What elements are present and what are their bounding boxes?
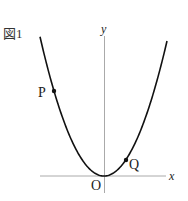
parabola-diagram: P Q O x y	[0, 0, 188, 201]
point-p	[52, 89, 56, 93]
point-q-label: Q	[129, 157, 139, 172]
point-p-label: P	[38, 85, 46, 100]
origin-label: O	[91, 178, 101, 193]
y-axis-label: y	[100, 22, 107, 36]
parabola-curve	[40, 37, 167, 176]
point-q	[124, 158, 128, 162]
x-axis-label: x	[168, 169, 175, 183]
